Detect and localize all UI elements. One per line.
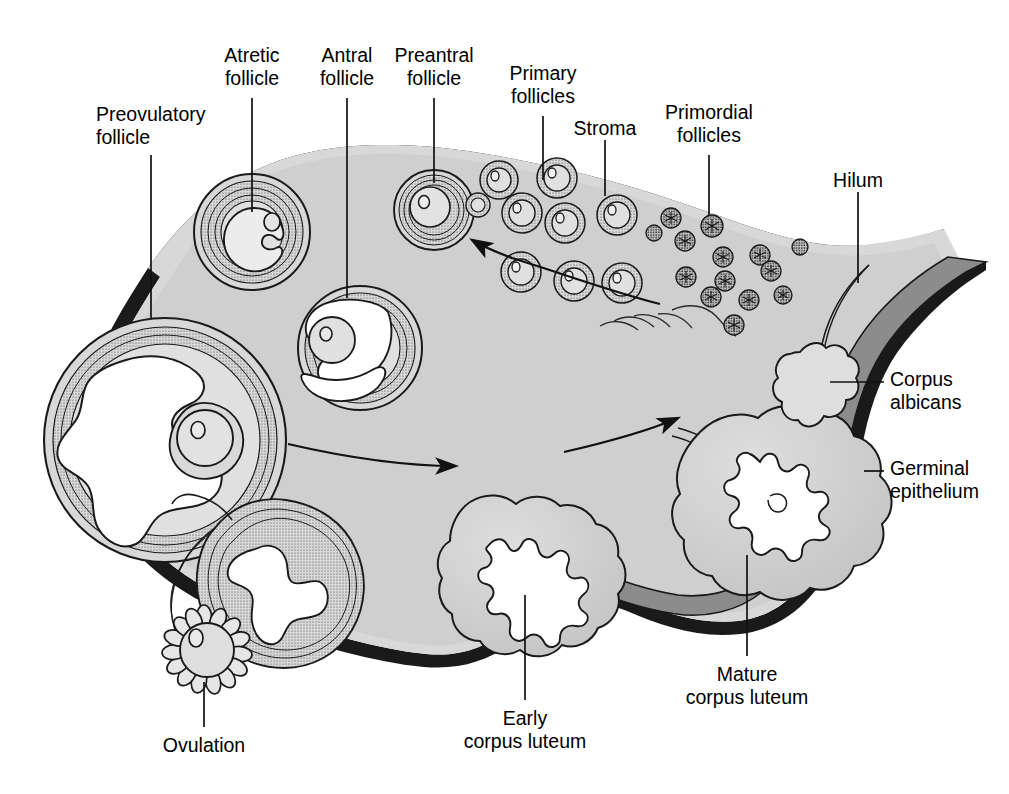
label-text-line1: Mature (686, 663, 808, 686)
ovary-body (44, 145, 986, 668)
label-text-line2: epithelium (890, 480, 979, 503)
primordial-follicle (792, 239, 808, 255)
primary-follicle (480, 161, 518, 199)
label-text-line2: follicle (96, 126, 205, 149)
primordial-follicle (715, 271, 735, 291)
label-corpus-albicans: Corpusalbicans (890, 368, 962, 414)
label-mature-corpus-luteum: Maturecorpus luteum (686, 663, 808, 709)
primary-follicle (554, 261, 594, 301)
label-preovulatory-follicle: Preovulatoryfollicle (96, 103, 205, 149)
label-atretic-follicle: Atreticfollicle (224, 44, 279, 90)
label-text-line1: Antral (320, 44, 374, 67)
primary-follicle (466, 193, 490, 217)
label-text-line2: follicles (665, 124, 753, 147)
primordial-follicle (761, 261, 781, 281)
label-text-line2: albicans (890, 391, 962, 414)
primordial-follicle (701, 287, 721, 307)
label-preantral-follicle: Preantralfollicle (394, 44, 473, 90)
primordial-follicle (739, 290, 759, 310)
label-text-line1: Stroma (574, 117, 637, 140)
primordial-follicle (724, 315, 744, 335)
label-primary-follicles: Primaryfollicles (509, 62, 576, 108)
label-hilum: Hilum (833, 169, 883, 192)
label-text-line1: Primordial (665, 101, 753, 124)
label-text-line2: follicles (509, 85, 576, 108)
label-text-line2: follicle (224, 67, 279, 90)
label-text-line2: follicle (394, 67, 473, 90)
ovum-cell (180, 623, 234, 677)
label-text-line1: Germinal (890, 457, 979, 480)
primordial-follicle (713, 247, 733, 267)
ovum-nucleus (189, 629, 203, 647)
label-text-line1: Primary (509, 62, 576, 85)
primordial-follicle (675, 231, 695, 251)
primary-follicle (502, 193, 542, 233)
primordial-follicle (701, 215, 723, 237)
primary-follicle (597, 195, 637, 235)
primary-follicle (545, 203, 585, 243)
label-stroma: Stroma (574, 117, 637, 140)
primary-follicle (501, 252, 541, 292)
label-text-line1: Preantral (394, 44, 473, 67)
label-primordial-follicles: Primordialfollicles (665, 101, 753, 147)
label-text-line2: corpus luteum (464, 730, 586, 753)
figure-canvas: PreovulatoryfollicleAtreticfollicleAntra… (0, 0, 1009, 794)
label-text-line1: Atretic (224, 44, 279, 67)
label-text-line2: corpus luteum (686, 686, 808, 709)
label-text-line1: Corpus (890, 368, 962, 391)
label-antral-follicle: Antralfollicle (320, 44, 374, 90)
primordial-follicle (774, 286, 792, 304)
label-ovulation: Ovulation (163, 734, 245, 757)
label-text-line1: Hilum (833, 169, 883, 192)
antral-follicle (298, 286, 422, 410)
label-text-line1: Preovulatory (96, 103, 205, 126)
label-early-corpus-luteum: Earlycorpus luteum (464, 707, 586, 753)
primordial-follicle (661, 208, 681, 228)
primordial-follicle (676, 267, 696, 287)
label-text-line2: follicle (320, 67, 374, 90)
primordial-follicle (646, 225, 662, 241)
label-text-line1: Early (464, 707, 586, 730)
label-germinal-epithelium: Germinalepithelium (890, 457, 979, 503)
label-text-line1: Ovulation (163, 734, 245, 757)
